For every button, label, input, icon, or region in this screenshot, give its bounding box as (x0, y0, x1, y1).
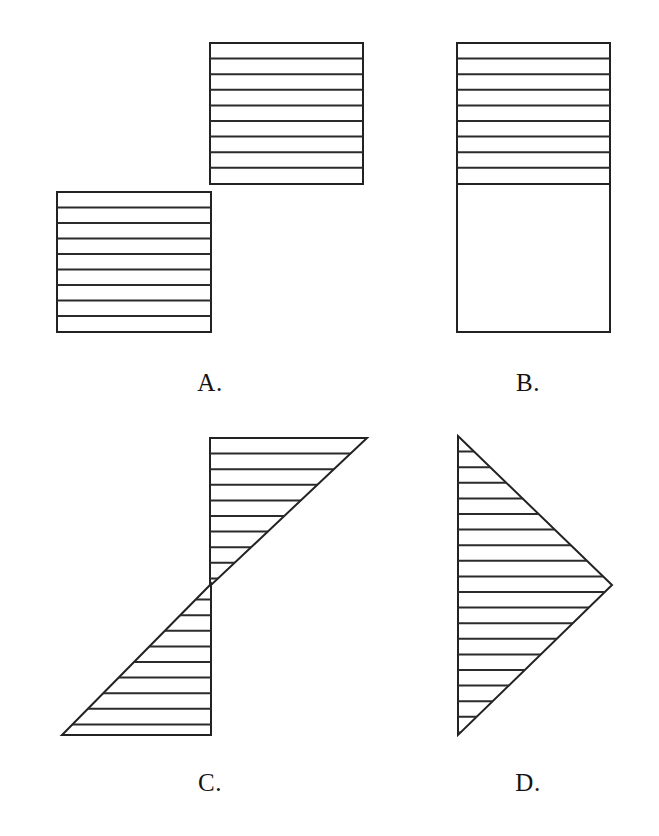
figure-a-upper-square (210, 43, 363, 184)
figure-a-lower-square-outline (57, 192, 211, 332)
figure-b (457, 43, 610, 332)
figure-a-lower-square (57, 192, 211, 332)
figure-b-rectangle-outline (457, 43, 610, 332)
figures-canvas (0, 0, 659, 836)
figure-c (57, 438, 372, 735)
figure-c-upper-triangle (205, 438, 372, 586)
figure-d-triangle-outline (458, 436, 612, 735)
figure-sheet: A. B. C. D. (0, 0, 659, 836)
figure-label-d: D. (488, 770, 568, 795)
figure-a-upper-square-outline (210, 43, 363, 184)
figure-a (57, 43, 363, 332)
figure-c-lower-triangle-outline (62, 584, 211, 735)
figure-label-c: C. (170, 770, 250, 795)
figure-label-a: A. (170, 370, 250, 395)
figure-c-lower-triangle (57, 584, 216, 735)
figure-d (453, 436, 617, 735)
figure-label-b: B. (488, 370, 568, 395)
